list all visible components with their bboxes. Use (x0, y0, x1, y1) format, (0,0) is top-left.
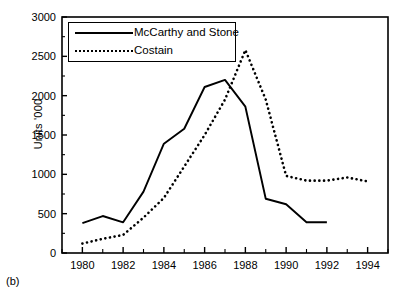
chart-legend: McCarthy and Stone Costain (68, 22, 236, 62)
legend-line-dotted-icon (75, 45, 133, 57)
legend-item-series-0: McCarthy and Stone (69, 24, 235, 42)
chart-figure: Units '000 050010001500200025003000 1980… (0, 0, 397, 296)
legend-item-series-1: Costain (69, 42, 235, 60)
legend-line-solid-icon (75, 27, 133, 39)
legend-label-series-1: Costain (134, 45, 173, 57)
panel-label: (b) (6, 275, 19, 287)
legend-label-series-0: McCarthy and Stone (134, 27, 239, 39)
series-line-0 (82, 80, 327, 223)
